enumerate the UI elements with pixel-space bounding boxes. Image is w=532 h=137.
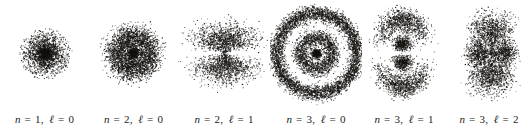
orbital-cloud-3s [270, 0, 362, 110]
orbital-panel-1s: n = 1, ℓ = 0 [0, 0, 89, 137]
orbital-label-2s: n = 2, ℓ = 0 [89, 113, 178, 126]
label-l-equals: = [414, 113, 428, 125]
orbital-label-3d: n = 3, ℓ = 2 [446, 113, 532, 126]
label-n-equals: = [292, 113, 306, 125]
orbital-panel-3d: n = 3, ℓ = 2 [446, 0, 532, 137]
label-n-equals: = [380, 113, 394, 125]
label-l-value: 0 [340, 113, 346, 125]
label-l-symbol: ℓ [405, 113, 413, 126]
label-n-symbol: n [104, 113, 110, 125]
orbital-figure: n = 1, ℓ = 0n = 2, ℓ = 0n = 2, ℓ = 1n = … [0, 0, 532, 137]
orbital-label-1s: n = 1, ℓ = 0 [0, 113, 89, 126]
label-l-symbol: ℓ [46, 113, 54, 126]
label-l-value: 0 [68, 113, 74, 125]
orbital-label-3p: n = 3, ℓ = 1 [362, 113, 446, 126]
orbital-panel-3p: n = 3, ℓ = 1 [362, 0, 446, 137]
label-n-value: 2 [124, 113, 130, 125]
label-n-equals: = [110, 113, 124, 125]
label-l-equals: = [234, 113, 248, 125]
label-l-value: 1 [248, 113, 254, 125]
label-n-symbol: n [15, 113, 21, 125]
orbital-panel-2s: n = 2, ℓ = 0 [89, 0, 178, 137]
orbital-panel-2p: n = 2, ℓ = 1 [178, 0, 270, 137]
orbital-cloud-1s [0, 0, 89, 110]
label-l-symbol: ℓ [135, 113, 143, 126]
label-l-equals: = [499, 113, 513, 125]
orbital-cloud-2s [89, 0, 178, 110]
label-l-value: 0 [157, 113, 163, 125]
label-n-equals: = [200, 113, 214, 125]
label-n-equals: = [21, 113, 35, 125]
orbital-panel-3s: n = 3, ℓ = 0 [270, 0, 362, 137]
orbital-label-2p: n = 2, ℓ = 1 [178, 113, 270, 126]
label-l-equals: = [143, 113, 157, 125]
orbital-cloud-3p [362, 0, 446, 110]
label-l-symbol: ℓ [490, 113, 498, 126]
orbital-cloud-3d [446, 0, 532, 110]
orbital-label-3s: n = 3, ℓ = 0 [270, 113, 362, 126]
orbital-cloud-2p [178, 0, 270, 110]
label-l-equals: = [54, 113, 68, 125]
label-l-equals: = [326, 113, 340, 125]
label-l-symbol: ℓ [225, 113, 233, 126]
label-n-value: 1 [35, 113, 41, 125]
label-l-value: 2 [513, 113, 519, 125]
label-l-symbol: ℓ [317, 113, 325, 126]
label-n-equals: = [465, 113, 479, 125]
label-l-value: 1 [428, 113, 434, 125]
